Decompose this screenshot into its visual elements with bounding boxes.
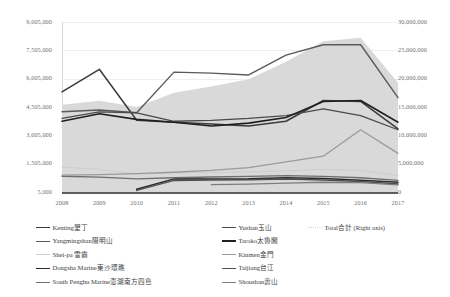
legend-item[interactable]: Taroko太魯閣	[222, 235, 278, 249]
legend-label: Taroko太魯閣	[239, 238, 279, 245]
legend-column-3: Total合計 (Right axis)	[308, 221, 385, 235]
legend-label: Dongsha Marine東沙環礁	[53, 265, 125, 272]
legend-item[interactable]: Yangmingshan陽明山	[36, 235, 152, 249]
legend-item[interactable]: Yushan玉山	[222, 221, 278, 235]
legend-label: Shoushan壽山	[239, 279, 279, 286]
legend-item[interactable]: Shoushan壽山	[222, 275, 278, 289]
legend-item[interactable]: Total合計 (Right axis)	[308, 221, 385, 235]
legend-column-2: Yushan玉山Taroko太魯閣Kinmen金門Taijiang台江Shous…	[222, 221, 278, 289]
legend-item[interactable]: Kinmen金門	[222, 248, 278, 262]
legend-swatch	[36, 227, 50, 228]
legend-swatch	[222, 240, 236, 242]
legend-label: Taijiang台江	[239, 265, 275, 272]
legend-swatch	[222, 254, 236, 255]
legend-swatch	[222, 268, 236, 269]
legend-swatch	[36, 254, 50, 255]
legend-item[interactable]: Kenting墾丁	[36, 221, 152, 235]
series-paths	[0, 0, 450, 215]
plot-area: 9,005,0007,505,0006,005,0004,505,0003,00…	[0, 0, 450, 215]
legend-label: South Penghu Marine澎湖南方四島	[53, 279, 153, 286]
legend-label: Yushan玉山	[239, 225, 272, 232]
legend-swatch	[222, 282, 236, 283]
legend-item[interactable]: Dongsha Marine東沙環礁	[36, 262, 152, 276]
legend-label: Yangmingshan陽明山	[53, 238, 113, 245]
legend-label: Kinmen金門	[239, 252, 274, 259]
legend-swatch	[36, 268, 50, 269]
chart-legend: Kenting墾丁Yangmingshan陽明山Shei-pa 雪霸Dongsh…	[0, 219, 450, 297]
legend-label: Kenting墾丁	[53, 225, 88, 232]
legend-item[interactable]: Shei-pa 雪霸	[36, 248, 152, 262]
legend-label: Shei-pa 雪霸	[53, 252, 89, 259]
legend-column-1: Kenting墾丁Yangmingshan陽明山Shei-pa 雪霸Dongsh…	[36, 221, 152, 289]
legend-swatch	[222, 227, 236, 228]
legend-label: Total合計 (Right axis)	[325, 225, 385, 232]
legend-swatch	[36, 282, 50, 283]
chart-container: 9,005,0007,505,0006,005,0004,505,0003,00…	[0, 0, 450, 297]
legend-swatch	[308, 227, 322, 228]
legend-item[interactable]: South Penghu Marine澎湖南方四島	[36, 275, 152, 289]
legend-item[interactable]: Taijiang台江	[222, 262, 278, 276]
legend-swatch	[36, 241, 50, 242]
